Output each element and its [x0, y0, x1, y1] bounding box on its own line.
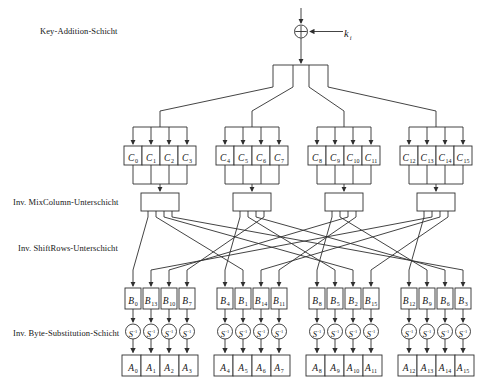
shiftrows-line [261, 211, 440, 286]
c-base: C [439, 153, 445, 163]
s-base: S [275, 329, 279, 339]
c-index: 9 [337, 158, 340, 164]
a-index: 0 [135, 368, 138, 374]
s-box-label: S-1 [367, 324, 376, 340]
c-cell-label: C15 [457, 148, 470, 164]
b-base: B [312, 296, 318, 306]
s-base: S [313, 329, 317, 339]
a-base: A [182, 363, 188, 373]
b-base: B [128, 296, 134, 306]
a-index: 4 [227, 368, 230, 374]
s-box-label: S-1 [349, 324, 358, 340]
a-base: A [128, 363, 134, 373]
inv-mixcolumn-box [325, 193, 363, 211]
s-exponent: -1 [226, 329, 230, 334]
b-index: 7 [189, 301, 192, 307]
s-exponent: -1 [410, 329, 414, 334]
c-index: 15 [463, 158, 469, 164]
b-cell-label: B0 [128, 291, 137, 307]
b-base: B [182, 296, 188, 306]
c-cell-label: C1 [146, 148, 156, 164]
b-cell-label: B11 [273, 291, 285, 307]
b-index: 0 [135, 301, 138, 307]
c-cell-label: C5 [238, 148, 248, 164]
b-base: B [422, 296, 428, 306]
s-base: S [459, 329, 463, 339]
layer-label-inv-byte-substitution: Inv. Byte-Substitution-Schicht [13, 328, 119, 338]
c-cell-label: C0 [128, 148, 138, 164]
b-base: B [163, 296, 169, 306]
a-base: A [421, 363, 427, 373]
a-index: 13 [427, 368, 433, 374]
s-box-label: S-1 [239, 324, 248, 340]
a-index: 9 [337, 368, 340, 374]
aes-inverse-round-diagram: Key-Addition-Schicht Inv. MixColumn-Unte… [0, 0, 488, 385]
a-index: 3 [189, 368, 192, 374]
b-base: B [273, 296, 279, 306]
c-index: 14 [445, 158, 451, 164]
s-exponent: -1 [244, 329, 248, 334]
a-cell-label: A14 [439, 358, 451, 374]
s-box-label: S-1 [165, 324, 174, 340]
a-base: A [457, 363, 463, 373]
s-base: S [423, 329, 427, 339]
s-box-label: S-1 [405, 324, 414, 340]
a-base: A [274, 363, 280, 373]
s-exponent: -1 [262, 329, 266, 334]
b-base: B [440, 296, 446, 306]
b-index: 15 [371, 301, 377, 307]
c-cell-label: C4 [220, 148, 230, 164]
a-base: A [164, 363, 170, 373]
c-base: C [164, 153, 170, 163]
c-cell-label: C10 [347, 148, 360, 164]
a-cell-label: A11 [365, 358, 377, 374]
b-index: 12 [409, 301, 415, 307]
a-index: 15 [463, 368, 469, 374]
a-cell-label: A1 [146, 358, 155, 374]
b-index: 14 [261, 301, 267, 307]
s-base: S [331, 329, 335, 339]
s-box-label: S-1 [147, 324, 156, 340]
c-index: 12 [409, 158, 415, 164]
s-box-label: S-1 [183, 324, 192, 340]
b-base: B [220, 296, 226, 306]
inv-mixcolumn-box [141, 193, 179, 211]
b-index: 10 [169, 301, 175, 307]
c-index: 7 [281, 158, 284, 164]
a-cell-label: A6 [256, 358, 265, 374]
s-exponent: -1 [428, 329, 432, 334]
c-cell-label: C6 [256, 148, 266, 164]
b-base: B [403, 296, 409, 306]
shiftrows-line [164, 211, 353, 286]
c-cell-label: C14 [439, 148, 452, 164]
c-base: C [220, 153, 226, 163]
b-cell-label: B14 [255, 291, 267, 307]
b-cell-label: B4 [220, 291, 229, 307]
round-key-base: k [344, 28, 349, 39]
s-exponent: -1 [372, 329, 376, 334]
b-base: B [330, 296, 336, 306]
s-box-label: S-1 [459, 324, 468, 340]
s-exponent: -1 [318, 329, 322, 334]
s-base: S [183, 329, 187, 339]
a-cell-label: A0 [128, 358, 137, 374]
s-exponent: -1 [446, 329, 450, 334]
s-box-label: S-1 [313, 324, 322, 340]
s-exponent: -1 [188, 329, 192, 334]
a-cell-label: A13 [421, 358, 433, 374]
inv-mixcolumn-box [233, 193, 271, 211]
s-exponent: -1 [354, 329, 358, 334]
layer-label-inv-shiftrows: Inv. ShiftRows-Unterschicht [18, 243, 118, 253]
b-index: 13 [151, 301, 157, 307]
c-cell-label: C11 [365, 148, 378, 164]
b-index: 11 [279, 301, 285, 307]
a-base: A [403, 363, 409, 373]
s-base: S [239, 329, 243, 339]
shiftrows-line [169, 211, 348, 286]
a-index: 8 [319, 368, 322, 374]
c-index: 0 [135, 158, 138, 164]
b-index: 4 [227, 301, 230, 307]
b-index: 5 [337, 301, 340, 307]
c-base: C [146, 153, 152, 163]
a-index: 5 [245, 368, 248, 374]
